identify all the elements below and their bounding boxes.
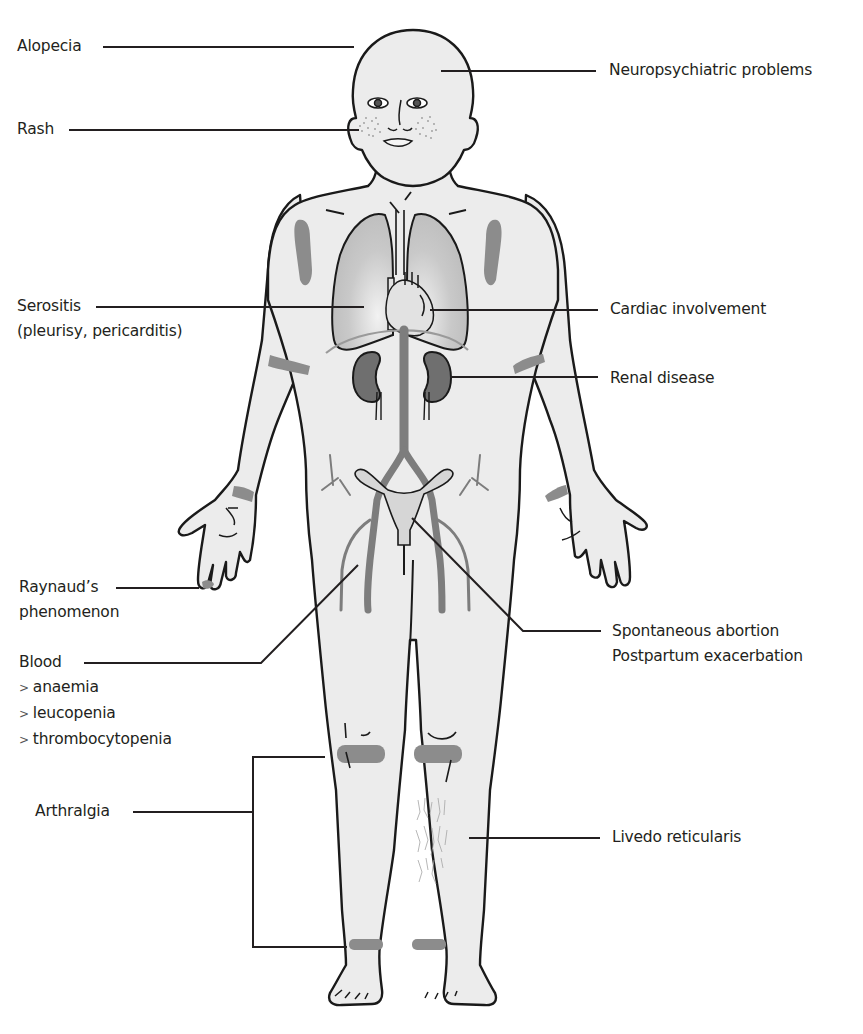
body-illustration xyxy=(0,0,863,1034)
postpartum-exacerbation: Postpartum exacerbation xyxy=(612,644,803,669)
blood-item-text: thrombocytopenia xyxy=(33,730,172,748)
blood-title: Blood xyxy=(19,650,172,675)
label-livedo: Livedo reticularis xyxy=(612,825,741,850)
label-arthralgia: Arthralgia xyxy=(35,799,110,824)
blood-item-text: anaemia xyxy=(33,678,99,696)
chevron-right-icon: > xyxy=(19,733,29,747)
blood-item-text: leucopenia xyxy=(33,704,116,722)
label-blood: Blood >anaemia >leucopenia >thrombocytop… xyxy=(19,650,172,753)
label-serositis: Serositis (pleurisy, pericarditis) xyxy=(17,294,182,344)
blood-item-thrombocytopenia: >thrombocytopenia xyxy=(19,727,172,753)
label-pregnancy: Spontaneous abortion Postpartum exacerba… xyxy=(612,619,803,669)
chevron-right-icon: > xyxy=(19,707,29,721)
label-alopecia: Alopecia xyxy=(17,34,82,59)
blood-item-anaemia: >anaemia xyxy=(19,675,172,701)
blood-item-leucopenia: >leucopenia xyxy=(19,701,172,727)
serositis-title: Serositis xyxy=(17,294,182,319)
spontaneous-abortion: Spontaneous abortion xyxy=(612,619,803,644)
label-cardiac: Cardiac involvement xyxy=(610,297,766,322)
raynauds-line2: phenomenon xyxy=(19,600,119,625)
label-rash: Rash xyxy=(17,117,54,142)
label-renal: Renal disease xyxy=(610,366,714,391)
label-raynauds: Raynaud’s phenomenon xyxy=(19,575,119,625)
raynauds-line1: Raynaud’s xyxy=(19,575,119,600)
label-neuropsychiatric: Neuropsychiatric problems xyxy=(609,58,812,83)
serositis-detail: (pleurisy, pericarditis) xyxy=(17,319,182,344)
chevron-right-icon: > xyxy=(19,681,29,695)
